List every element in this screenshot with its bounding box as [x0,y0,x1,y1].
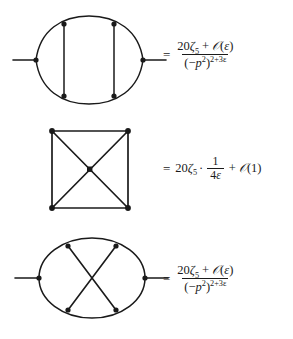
order-symbol-3: 𝒪 [212,262,220,277]
equation-row-1: = 20ζ5+𝒪(ε) (−p2)2+3ε [0,0,293,118]
vertex-top-left [61,21,66,26]
feynman-diagram-figure: = 20ζ5+𝒪(ε) (−p2)2+3ε [0,0,293,339]
equals-sign-1: = [163,48,170,61]
vertex-center [87,167,92,172]
vertex-left [36,275,41,280]
order-symbol-2: 𝒪 [239,160,247,175]
fraction-numerator-1: 20ζ5+𝒪(ε) [175,39,235,54]
crossed-ellipse-propagator-diagram [0,230,175,339]
lens-upper-arc [36,16,143,60]
vertex-bottom-right [113,307,118,312]
plus-sign-1: + [202,39,209,53]
result-fraction-3: 20ζ5+𝒪(ε) (−p2)2+3ε [175,263,235,294]
vertex-left [33,57,38,62]
denominator-exponent-1: 2+3ε [210,55,226,64]
order-argument-3: ε [224,263,229,277]
diagram-holder-3 [0,230,175,339]
vertex-bottom-left [61,93,66,98]
diagram-holder-2 [0,118,175,230]
order-symbol-1: 𝒪 [212,38,220,53]
square-with-diagonals-diagram [0,118,175,230]
coefficient-2: 20 [175,161,188,175]
fraction-denominator-1: (−p2)2+3ε [182,54,228,70]
coefficient-3: 20 [177,263,190,277]
vertex-bottom-left [65,307,70,312]
minus-sign-1: − [188,56,195,70]
pole-denominator-symbol-2: ε [216,168,221,182]
result-fraction-1: 20ζ5+𝒪(ε) (−p2)2+3ε [175,39,235,70]
vertex-right [140,57,145,62]
pole-denominator-2: 4ε [207,168,224,182]
equation-row-2: = 20ζ5· 1 4ε +𝒪(1) [0,118,293,230]
vertex-top-right [113,243,118,248]
formula-1: = 20ζ5+𝒪(ε) (−p2)2+3ε [163,39,235,70]
fraction-numerator-3: 20ζ5+𝒪(ε) [175,263,235,278]
result-expression-2: 20ζ5· 1 4ε +𝒪(1) [175,155,261,183]
equals-sign-3: = [163,272,170,285]
equals-sign-2: = [163,162,170,175]
pole-numerator-2: 1 [210,155,222,168]
minus-sign-3: − [188,280,195,294]
pole-fraction-2: 1 4ε [207,155,224,183]
zeta-index-2: 5 [193,168,197,177]
vertex-bottom-right [111,93,116,98]
vertex-bottom-right [125,205,131,211]
vertex-top-right [125,128,131,134]
vertex-bottom-left [49,205,55,211]
diagram-holder-1 [0,0,175,118]
equation-row-3: = 20ζ5+𝒪(ε) (−p2)2+3ε [0,230,293,339]
fraction-denominator-3: (−p2)2+3ε [182,278,228,294]
plus-sign-3: + [202,263,209,277]
order-argument-1: ε [224,39,229,53]
formula-3: = 20ζ5+𝒪(ε) (−p2)2+3ε [163,263,235,294]
vertex-top-left [49,128,55,134]
plus-sign-2: + [229,161,236,175]
vertex-top-left [65,243,70,248]
denominator-exponent-3: 2+3ε [210,279,226,288]
two-rung-lens-propagator-diagram [0,0,175,118]
order-argument-2: (1) [247,161,262,175]
coefficient-1: 20 [177,39,190,53]
cdot-sign-2: · [199,161,203,175]
formula-2: = 20ζ5· 1 4ε +𝒪(1) [163,155,261,183]
vertex-top-right [111,21,116,26]
vertex-right [142,275,147,280]
lens-lower-arc [36,60,143,104]
